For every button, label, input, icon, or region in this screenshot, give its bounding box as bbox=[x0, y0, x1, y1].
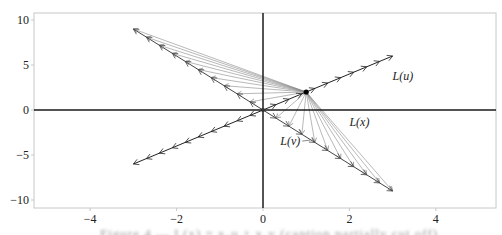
tick-labels: −4−20241050−5−10 bbox=[10, 13, 439, 226]
y-tick-label: 0 bbox=[23, 103, 29, 117]
fan-line bbox=[306, 92, 354, 167]
fan-line bbox=[289, 92, 306, 126]
fan-line bbox=[306, 92, 315, 142]
chart: −4−20241050−5−10 L(u)L(x)L(v) bbox=[0, 0, 502, 235]
label-leader-line bbox=[302, 140, 310, 141]
series-labels: L(u)L(x)L(v) bbox=[279, 69, 413, 148]
axes bbox=[34, 13, 496, 208]
series-label: L(x) bbox=[348, 115, 369, 129]
series-label: L(u) bbox=[392, 69, 414, 83]
fan-line bbox=[146, 37, 306, 92]
fan-line bbox=[302, 92, 306, 134]
fan-line bbox=[198, 70, 306, 93]
figure-caption-cropped: Figure 4 — L(x) = x₁u + x₂v (caption par… bbox=[0, 224, 502, 235]
fan-line bbox=[306, 92, 366, 175]
fan-line bbox=[306, 92, 379, 183]
point-x-marker bbox=[304, 89, 309, 94]
fan-line bbox=[159, 45, 306, 92]
figure-caption: Figure 4 — L(x) = x₁u + x₂v (caption par… bbox=[100, 226, 438, 235]
y-tick-label: 5 bbox=[23, 58, 29, 72]
fan-line bbox=[172, 53, 306, 92]
series-label: L(v) bbox=[279, 134, 300, 148]
y-tick-label: −5 bbox=[16, 148, 29, 162]
fan-line bbox=[276, 92, 306, 118]
y-tick-label: 10 bbox=[17, 13, 29, 27]
fan-line bbox=[306, 92, 392, 191]
origin-marker bbox=[261, 108, 265, 112]
y-tick-label: −10 bbox=[10, 193, 29, 207]
